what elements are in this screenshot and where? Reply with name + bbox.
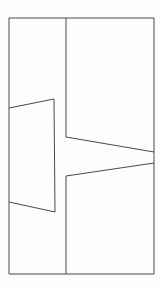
figure-root [0,0,163,284]
line-drawing-canvas [0,0,163,284]
figure-background [0,0,163,284]
